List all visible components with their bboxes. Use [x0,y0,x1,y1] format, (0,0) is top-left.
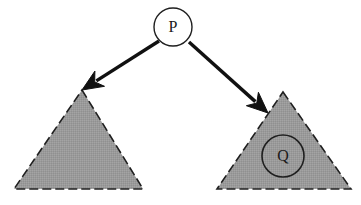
edge-root-to-left [82,41,159,90]
node-p-label: P [169,18,178,35]
right-subtree-triangle [217,92,351,189]
node-p: P [154,8,192,46]
left-subtree-triangle [14,90,143,189]
diagram-canvas: Q P [0,0,361,205]
edge-root-to-right [189,42,268,113]
edge-right-line [189,42,255,102]
node-q-label: Q [277,147,289,164]
edge-left-line [96,41,159,81]
arrow-head-left-icon [82,71,105,90]
tree-diagram: Q P [0,0,361,205]
